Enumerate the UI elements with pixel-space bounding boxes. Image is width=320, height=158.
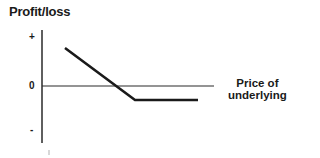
- x-axis-label-line2: underlying: [228, 89, 287, 101]
- x-axis-label-line1: Price of: [228, 77, 287, 89]
- x-axis-label: Price of underlying: [228, 77, 287, 101]
- payoff-line: [65, 48, 198, 100]
- scan-mark: [48, 150, 50, 155]
